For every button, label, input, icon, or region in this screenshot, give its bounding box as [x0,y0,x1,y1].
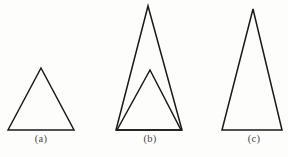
panel-label-b: (b) [143,134,156,145]
panel-label-c: (c) [248,134,261,145]
figure-container: (a) (b) (c) [0,0,288,157]
panel-label-a: (a) [35,134,48,145]
